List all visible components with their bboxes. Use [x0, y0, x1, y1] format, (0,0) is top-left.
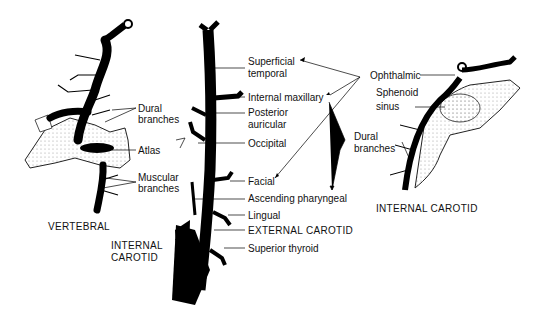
ascending-pharyngeal-label: Ascending pharyngeal [248, 193, 347, 204]
internal-carotid-left-caption: INTERNAL [111, 240, 163, 251]
muscular-branches-label-2: branches [138, 183, 179, 194]
external-carotid-caption: EXTERNAL CAROTID [248, 225, 353, 236]
arterial-anatomy-diagram: Dural branches Atlas Muscular branches V… [0, 0, 536, 321]
dural-branches-right-label: Dural [354, 131, 378, 142]
atlas-label: Atlas [138, 145, 160, 156]
vertebral-caption: VERTEBRAL [48, 221, 110, 232]
diagram-artwork [0, 0, 536, 321]
posterior-auricular-label: Posterior [248, 107, 288, 118]
occipital-label: Occipital [248, 138, 286, 149]
vertebral-dural-label-2: branches [138, 114, 179, 125]
muscular-branches-label: Muscular [138, 172, 179, 183]
vertebral-illustration [25, 20, 136, 210]
internal-carotid-left-caption-2: CAROTID [111, 252, 158, 263]
superficial-temporal-label: Superficial [248, 56, 295, 67]
internal-maxillary-label: Internal maxillary [248, 92, 324, 103]
vertebral-dural-label: Dural [138, 103, 162, 114]
sphenoid-sinus-label: Sphenoid [376, 87, 418, 98]
dural-branches-right-label-2: branches [354, 143, 395, 154]
internal-carotid-right-caption: INTERNAL CAROTID [376, 203, 478, 214]
sphenoid-sinus-label-2: sinus [376, 101, 399, 112]
lingual-label: Lingual [248, 210, 280, 221]
posterior-auricular-label-2: auricular [248, 119, 286, 130]
facial-label: Facial [248, 176, 275, 187]
ophthalmic-label: Ophthalmic [370, 70, 421, 81]
superior-thyroid-label: Superior thyroid [248, 243, 319, 254]
superficial-temporal-label-2: temporal [248, 68, 287, 79]
